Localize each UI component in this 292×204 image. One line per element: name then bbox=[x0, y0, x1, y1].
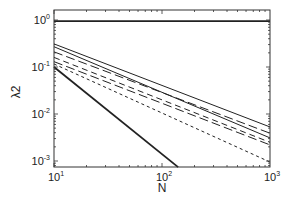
series-line-s1 bbox=[54, 44, 270, 127]
plot-frame bbox=[54, 10, 270, 167]
tick-label: 101 bbox=[48, 170, 64, 183]
series-line-s4 bbox=[54, 57, 270, 142]
tick-label: 10-1 bbox=[32, 60, 51, 73]
tick-label: 10-2 bbox=[32, 107, 51, 120]
series-line-s6 bbox=[54, 64, 270, 162]
tick-label: 10-3 bbox=[32, 154, 51, 167]
y-tick-labels: 10010-110-210-3 bbox=[32, 13, 51, 167]
tick-label: 103 bbox=[264, 170, 280, 183]
plot-lines bbox=[54, 21, 270, 167]
chart: 101102103 10010-110-210-3 N λ2 bbox=[0, 0, 292, 204]
tick-label: 100 bbox=[34, 13, 50, 26]
y-axis-label: λ2 bbox=[9, 85, 23, 98]
series-line-steep bbox=[54, 67, 178, 167]
series-line-s5 bbox=[54, 62, 270, 145]
x-axis-label: N bbox=[158, 181, 167, 195]
axis-ticks bbox=[54, 10, 270, 167]
